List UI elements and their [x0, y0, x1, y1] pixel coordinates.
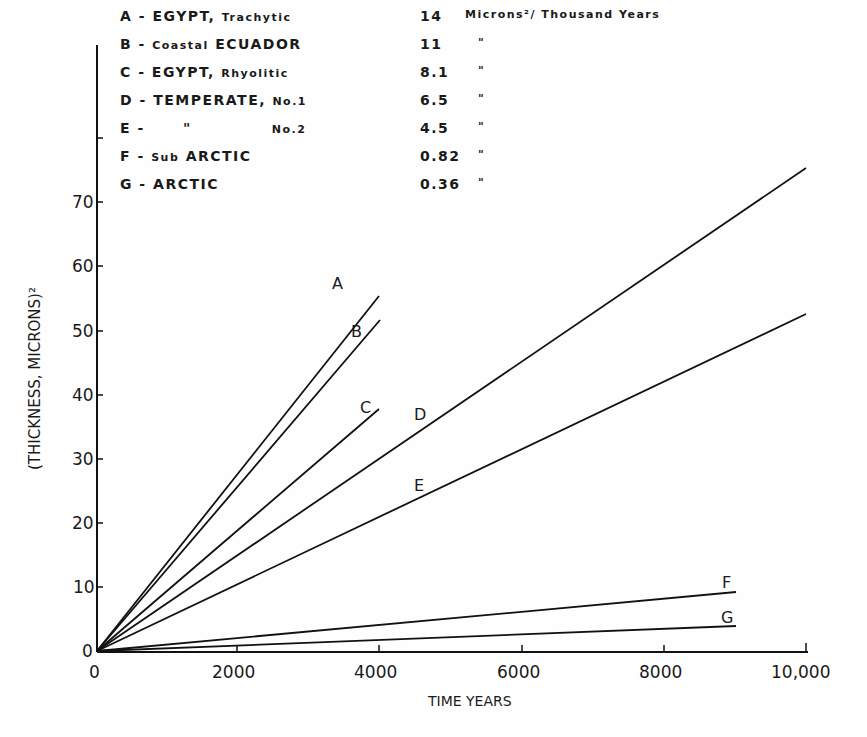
- line-label-e: E: [414, 476, 424, 495]
- y-tick-label: 60: [72, 256, 94, 276]
- line-e: [97, 314, 806, 651]
- y-tick-label: 30: [72, 449, 94, 469]
- y-tick-label: 40: [72, 385, 94, 405]
- x-tick-label: 6000: [497, 662, 540, 682]
- line-label-b: B: [351, 322, 362, 341]
- x-axis-title: TIME YEARS: [428, 693, 512, 709]
- line-g: [97, 626, 736, 651]
- x-ticks: [237, 643, 806, 652]
- line-c: [97, 409, 379, 651]
- x-tick-label: 10,000: [771, 662, 830, 682]
- line-label-f: F: [722, 573, 731, 592]
- x-tick-label: 8000: [639, 662, 682, 682]
- x-tick-label: 0: [89, 662, 100, 682]
- y-axis-title: (THICKNESS, MICRONS)²: [26, 287, 44, 470]
- y-tick-label: 20: [72, 513, 94, 533]
- line-b: [97, 320, 380, 651]
- y-tick-label: 0: [82, 641, 93, 661]
- line-label-c: C: [360, 398, 371, 417]
- x-tick-label: 4000: [354, 662, 397, 682]
- y-tick-label: 50: [72, 321, 94, 341]
- chart-canvas: [0, 0, 867, 737]
- line-f: [97, 592, 736, 651]
- line-a: [97, 296, 379, 651]
- line-label-d: D: [414, 405, 426, 424]
- x-tick-label: 2000: [212, 662, 255, 682]
- y-tick-label: 70: [72, 192, 94, 212]
- line-d: [97, 168, 806, 651]
- line-label-g: G: [721, 608, 733, 627]
- line-label-a: A: [332, 274, 343, 293]
- y-tick-label: 10: [73, 577, 95, 597]
